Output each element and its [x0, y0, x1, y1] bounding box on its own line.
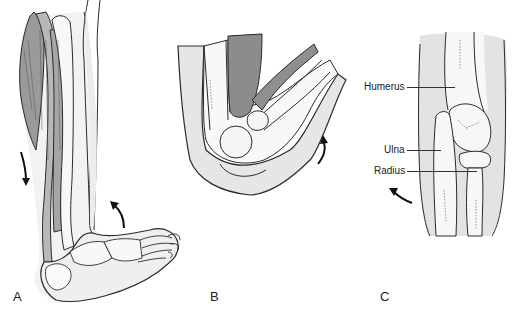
- leg-foot-illustration: [0, 0, 185, 310]
- leader-line-radius: [407, 171, 477, 172]
- arrow-curved-up-icon: [110, 201, 124, 228]
- arrow-down-icon: [21, 152, 30, 186]
- flexed-elbow-illustration: [170, 0, 350, 310]
- panel-label-a: A: [13, 290, 22, 303]
- panel-label-b: B: [210, 290, 219, 303]
- leader-line-humerus: [407, 87, 455, 88]
- callout-radius: Radius: [374, 166, 405, 176]
- leader-line-ulna: [407, 150, 441, 151]
- panel-label-c: C: [380, 290, 389, 303]
- panel-a-leg-foot: A: [0, 0, 185, 310]
- arrow-curved-left-icon: [389, 188, 412, 203]
- panel-b-flexed-elbow: B: [170, 0, 350, 310]
- anterior-elbow-illustration: [340, 0, 517, 310]
- callout-ulna: Ulna: [384, 145, 405, 155]
- callout-humerus: Humerus: [364, 82, 405, 92]
- panel-c-anterior-elbow: Humerus Ulna Radius C: [340, 0, 517, 310]
